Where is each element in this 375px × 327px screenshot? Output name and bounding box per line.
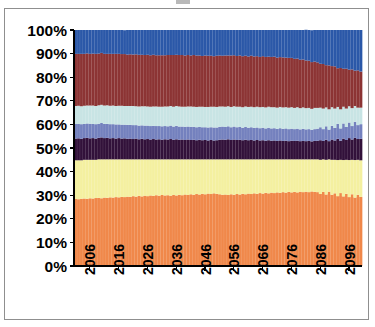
- bar-segment: [111, 54, 114, 106]
- bar-segment: [111, 138, 114, 159]
- bar-segment: [330, 126, 333, 140]
- bar-segment: [348, 138, 351, 160]
- bar-segment: [333, 140, 336, 159]
- bar-segment: [250, 30, 253, 56]
- bar-segment: [281, 159, 284, 192]
- bar-segment: [287, 159, 290, 192]
- bar-segment: [281, 57, 284, 107]
- bar-segment: [97, 124, 100, 138]
- bar-segment: [255, 107, 258, 128]
- bar-segment: [224, 30, 227, 55]
- bar-segment: [238, 127, 241, 140]
- bar-segment: [290, 107, 293, 128]
- bar-segment: [307, 61, 310, 108]
- bar-segment: [140, 55, 143, 106]
- bar-segment: [273, 193, 276, 266]
- bar-segment: [192, 127, 195, 140]
- bar-segment: [160, 107, 163, 127]
- bar-segment: [230, 140, 233, 159]
- bar-segment: [270, 128, 273, 140]
- bar-segment: [166, 140, 169, 160]
- bar-segment: [94, 54, 97, 106]
- bar-segment: [158, 126, 161, 139]
- bar-segment: [80, 124, 83, 139]
- bar-segment: [163, 126, 166, 139]
- bar-segment: [123, 30, 126, 54]
- bar-segment: [209, 30, 212, 56]
- bar-segment: [117, 54, 120, 106]
- bar-segment: [155, 30, 158, 55]
- bar-segment: [276, 192, 279, 266]
- bar-segment: [123, 54, 126, 106]
- bar-segment: [227, 55, 230, 106]
- bar-segment: [359, 124, 362, 139]
- bar-segment: [201, 127, 204, 140]
- bar-segment: [304, 60, 307, 108]
- bar-segment: [163, 159, 166, 195]
- bar-segment: [155, 126, 158, 139]
- bar-segment: [189, 159, 192, 194]
- bar-segment: [114, 30, 117, 54]
- bar-segment: [342, 107, 345, 124]
- bar-segment: [250, 194, 253, 266]
- bar-segment: [198, 140, 201, 160]
- bar-segment: [209, 56, 212, 107]
- bar-segment: [342, 139, 345, 160]
- bar-segment: [86, 160, 89, 199]
- bar-segment: [296, 59, 299, 108]
- bar-segment: [158, 107, 161, 126]
- bar-segment: [319, 127, 322, 140]
- bar-segment: [106, 30, 109, 54]
- bar-segment: [77, 54, 80, 106]
- bar-segment: [106, 54, 109, 105]
- bar-segment: [333, 30, 336, 66]
- bar-segment: [253, 128, 256, 141]
- bar-segment: [290, 30, 293, 58]
- bar-segment: [83, 54, 86, 106]
- bar-segment: [120, 30, 123, 54]
- bar-segment: [322, 109, 325, 130]
- bar-segment: [146, 30, 149, 55]
- bar-segment: [327, 141, 330, 159]
- x-tick-label: 2066: [255, 244, 271, 275]
- bar-segment: [120, 159, 123, 197]
- bar-segment: [94, 124, 97, 138]
- bar-segment: [117, 30, 120, 54]
- bar-segment: [319, 64, 322, 108]
- bar-segment: [293, 59, 296, 108]
- bar-segment: [172, 30, 175, 55]
- bar-segment: [172, 140, 175, 160]
- bar-segment: [175, 159, 178, 195]
- bar-segment: [143, 106, 146, 125]
- bar-segment: [359, 30, 362, 72]
- bar-segment: [77, 160, 80, 199]
- bar-segment: [287, 30, 290, 58]
- bar-segment: [244, 30, 247, 56]
- bar-segment: [186, 55, 189, 106]
- bar-segment: [114, 139, 117, 160]
- bar-segment: [178, 127, 181, 140]
- bar-segment: [244, 127, 247, 140]
- bar-segment: [160, 55, 163, 106]
- bar-segment: [235, 140, 238, 159]
- bar-segment: [215, 56, 218, 107]
- bar-segment: [111, 106, 114, 125]
- bar-segment: [307, 141, 310, 159]
- bar-segment: [221, 195, 224, 266]
- bar-segment: [120, 106, 123, 125]
- bar-segment: [189, 55, 192, 106]
- bar-segment: [261, 56, 264, 107]
- bar-segment: [244, 56, 247, 107]
- bar-segment: [97, 138, 100, 159]
- bar-segment: [129, 106, 132, 125]
- bar-segment: [244, 194, 247, 266]
- bar-segment: [91, 30, 94, 54]
- bar-segment: [206, 140, 209, 159]
- bar-segment: [114, 124, 117, 138]
- bar-segment: [325, 126, 328, 139]
- x-tick-label: 2016: [111, 244, 127, 275]
- bar-segment: [293, 141, 296, 159]
- bar-segment: [313, 159, 316, 192]
- bar-segment: [353, 122, 356, 138]
- bar-segment: [111, 30, 114, 54]
